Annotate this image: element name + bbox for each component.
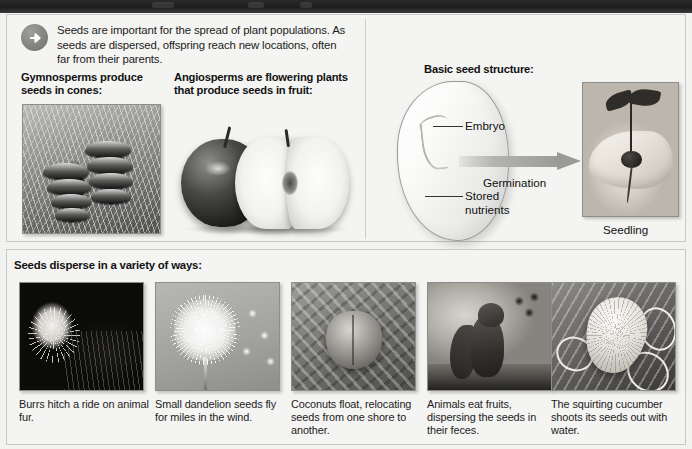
coconut-floating-photo [291, 282, 416, 391]
embryo-leader-line [433, 126, 463, 127]
dandelion-seed-head-photo [155, 282, 280, 391]
dispersal-item-cucumber [551, 282, 676, 391]
stored-nutrients-label: Stored nutrients [465, 189, 521, 216]
burr-on-animal-fur-photo [19, 282, 144, 391]
embryo-label: Embryo [465, 119, 505, 133]
gymnosperm-heading: Gymnosperms produce seeds in cones: [21, 71, 171, 98]
dispersal-caption-burr: Burrs hitch a ride on animal fur. [19, 398, 150, 424]
angiosperm-heading: Angiosperms are flowering plants that pr… [174, 71, 349, 98]
dispersal-item-burr [19, 282, 144, 391]
dispersal-caption-animal: Animals eat fruits, dispersing the seeds… [427, 398, 558, 438]
dispersal-item-animal [427, 282, 552, 391]
squirrel-eating-berries-photo [427, 282, 552, 391]
apple-whole-and-halved-photo [175, 127, 360, 239]
stored-nutrients-leader-line [425, 196, 463, 197]
pine-cones-photo [22, 104, 161, 234]
intro-text: Seeds are important for the spread of pl… [57, 23, 351, 67]
panel-vertical-divider [365, 19, 366, 239]
top-panel: Seeds are important for the spread of pl… [6, 14, 686, 242]
germination-arrow-icon [459, 152, 584, 171]
squirting-cucumber-photo [551, 282, 676, 391]
dispersal-caption-dandelion: Small dandelion seeds fly for miles in t… [155, 398, 286, 424]
dispersal-item-dandelion [155, 282, 280, 391]
dispersal-caption-coconut: Coconuts float, relocating seeds from on… [291, 398, 422, 438]
dispersal-item-coconut [291, 282, 416, 391]
apple-core [282, 171, 298, 195]
dispersal-caption-cucumber: The squirting cucumber shoots its seeds … [551, 398, 679, 438]
dispersal-heading: Seeds disperse in a variety of ways: [14, 259, 434, 272]
infographic-page: Seeds are important for the spread of pl… [0, 0, 692, 449]
seedling-label: Seedling [603, 223, 648, 237]
arrow-right-circle-icon [21, 24, 48, 51]
hand-holding-seedling-photo [582, 82, 679, 217]
seed-structure-heading: Basic seed structure: [424, 63, 624, 76]
germination-label: Germination [483, 176, 546, 190]
intro-callout: Seeds are important for the spread of pl… [21, 23, 351, 67]
top-banner [0, 0, 692, 13]
